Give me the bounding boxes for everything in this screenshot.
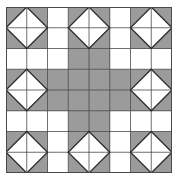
grid-svg — [6, 7, 172, 173]
shaded-cell — [48, 69, 69, 90]
quilt-grid-diagram — [6, 7, 172, 173]
shaded-cell — [110, 69, 131, 90]
shaded-cell — [68, 90, 89, 111]
shaded-cell — [68, 49, 89, 70]
shaded-cell — [68, 111, 89, 132]
shaded-cell — [89, 49, 110, 70]
shaded-cell — [89, 90, 110, 111]
shaded-cell — [89, 69, 110, 90]
shaded-cell — [110, 90, 131, 111]
shaded-cell — [68, 69, 89, 90]
shaded-cell — [89, 111, 110, 132]
shaded-cell — [48, 90, 69, 111]
